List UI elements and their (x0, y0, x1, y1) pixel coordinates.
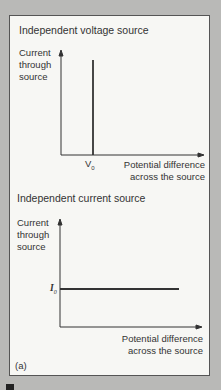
voltage-source-axes (59, 50, 204, 157)
chart-axes (0, 0, 221, 390)
cropped-page-glyph (6, 384, 14, 390)
current-source-axes (58, 219, 202, 329)
